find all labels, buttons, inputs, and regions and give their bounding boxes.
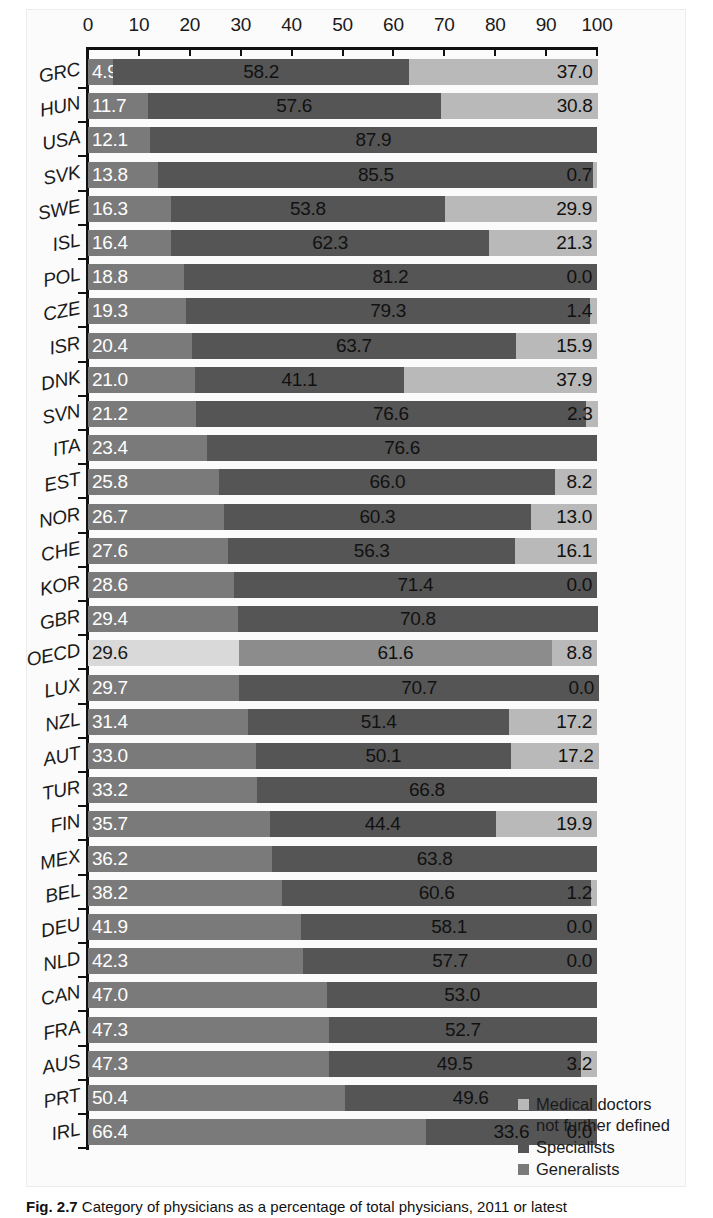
value-label-medical-doctors-nfd: 15.9 xyxy=(556,335,592,357)
legend-swatch-icon xyxy=(518,1164,529,1175)
y-tick-mark xyxy=(78,190,87,192)
segment-specialists: 85.5 xyxy=(158,162,593,188)
value-label-generalists: 66.4 xyxy=(92,1121,128,1143)
segment-specialists: 51.4 xyxy=(248,709,510,735)
y-tick-mark xyxy=(78,1079,87,1081)
caption-text: Category of physicians as a percentage o… xyxy=(82,1198,567,1215)
segment-specialists: 53.8 xyxy=(171,196,445,222)
value-label-specialists: 44.4 xyxy=(365,813,401,835)
value-label-generalists: 35.7 xyxy=(92,813,128,835)
value-label-generalists: 36.2 xyxy=(92,848,128,870)
segment-specialists: 81.2 xyxy=(184,264,597,290)
stacked-bar-deu: 41.958.10.0 xyxy=(88,914,597,940)
chart-legend: Medical doctorsnot further definedSpecia… xyxy=(518,1094,688,1181)
country-label-aus: AUS xyxy=(5,1050,82,1086)
segment-generalists: 21.0 xyxy=(88,367,195,393)
chart-row: CHE27.656.316.1 xyxy=(0,538,713,564)
value-label-generalists: 16.3 xyxy=(92,198,128,220)
chart-row: NLD42.357.70.0 xyxy=(0,948,713,974)
value-label-specialists: 57.6 xyxy=(276,95,312,117)
value-label-medical-doctors-nfd: 0.0 xyxy=(566,916,592,938)
segment-generalists: 26.7 xyxy=(88,504,224,530)
country-label-nld: NLD xyxy=(5,947,82,983)
country-label-oecd: OECD xyxy=(5,640,82,676)
segment-generalists: 4.9 xyxy=(88,59,113,85)
stacked-bar-nor: 26.760.313.0 xyxy=(88,504,597,530)
stacked-bar-swe: 16.353.829.9 xyxy=(88,196,597,222)
segment-medical-doctors-nfd: 21.3 xyxy=(489,230,597,256)
segment-generalists: 47.3 xyxy=(88,1017,329,1043)
legend-label-line2: not further defined xyxy=(536,1115,688,1136)
country-label-kor: KOR xyxy=(5,571,82,607)
segment-medical-doctors-nfd: 17.2 xyxy=(511,743,599,769)
segment-medical-doctors-nfd: 3.2 xyxy=(581,1051,597,1077)
stacked-bar-gbr: 29.470.8 xyxy=(88,606,597,632)
chart-row: OECD29.661.68.8 xyxy=(0,640,713,666)
value-label-medical-doctors-nfd: 8.8 xyxy=(566,642,592,664)
segment-generalists: 18.8 xyxy=(88,264,184,290)
value-label-medical-doctors-nfd: 1.2 xyxy=(566,882,592,904)
value-label-specialists: 58.1 xyxy=(431,916,467,938)
stacked-bar-can: 47.053.0 xyxy=(88,982,597,1008)
segment-generalists: 33.0 xyxy=(88,743,256,769)
caption-label: Fig. 2.7 xyxy=(26,1198,78,1215)
segment-specialists: 60.3 xyxy=(224,504,531,530)
segment-specialists: 62.3 xyxy=(171,230,488,256)
legend-item-1: Specialists xyxy=(518,1137,688,1158)
segment-generalists: 35.7 xyxy=(88,811,270,837)
value-label-medical-doctors-nfd: 21.3 xyxy=(556,232,592,254)
y-tick-mark xyxy=(78,839,87,841)
value-label-generalists: 26.7 xyxy=(92,506,128,528)
legend-swatch-icon xyxy=(518,1099,529,1110)
legend-item-0: Medical doctorsnot further defined xyxy=(518,1094,688,1136)
value-label-specialists: 60.3 xyxy=(359,506,395,528)
chart-row: ISL16.462.321.3 xyxy=(0,230,713,256)
value-label-specialists: 56.3 xyxy=(354,540,390,562)
chart-row: USA12.187.9 xyxy=(0,127,713,153)
y-tick-mark xyxy=(78,155,87,157)
stacked-bar-lux: 29.770.70.0 xyxy=(88,675,597,701)
value-label-generalists: 28.6 xyxy=(92,574,128,596)
segment-medical-doctors-nfd: 1.2 xyxy=(591,880,597,906)
value-label-specialists: 62.3 xyxy=(312,232,348,254)
value-label-generalists: 47.0 xyxy=(92,984,128,1006)
chart-row: ISR20.463.715.9 xyxy=(0,333,713,359)
chart-row: FRA47.352.7 xyxy=(0,1017,713,1043)
value-label-medical-doctors-nfd: 37.0 xyxy=(557,61,593,83)
segment-generalists: 28.6 xyxy=(88,572,234,598)
stacked-bar-che: 27.656.316.1 xyxy=(88,538,597,564)
segment-generalists: 23.4 xyxy=(88,435,207,461)
segment-specialists: 63.8 xyxy=(272,846,597,872)
value-label-specialists: 63.7 xyxy=(336,335,372,357)
stacked-bar-bel: 38.260.61.2 xyxy=(88,880,597,906)
y-tick-mark xyxy=(78,1113,87,1115)
segment-generalists: 36.2 xyxy=(88,846,272,872)
segment-medical-doctors-nfd: 29.9 xyxy=(445,196,597,222)
segment-medical-doctors-nfd: 19.9 xyxy=(496,811,597,837)
segment-generalists: 66.4 xyxy=(88,1119,426,1145)
value-label-specialists: 49.5 xyxy=(437,1053,473,1075)
y-tick-mark xyxy=(78,566,87,568)
value-label-medical-doctors-nfd: 19.9 xyxy=(556,813,592,835)
value-label-medical-doctors-nfd: 17.2 xyxy=(556,711,592,733)
segment-specialists: 71.4 xyxy=(234,572,597,598)
value-label-generalists: 33.2 xyxy=(92,779,128,801)
segment-specialists: 61.6 xyxy=(239,640,553,666)
value-label-medical-doctors-nfd: 0.0 xyxy=(566,950,592,972)
segment-generalists: 16.4 xyxy=(88,230,171,256)
segment-medical-doctors-nfd: 30.8 xyxy=(441,93,598,119)
chart-row: EST25.866.08.2 xyxy=(0,469,713,495)
chart-row: AUS47.349.53.2 xyxy=(0,1051,713,1077)
value-label-generalists: 29.7 xyxy=(92,677,128,699)
value-label-medical-doctors-nfd: 17.2 xyxy=(558,745,594,767)
y-tick-mark xyxy=(78,668,87,670)
y-tick-mark xyxy=(78,703,87,705)
value-label-generalists: 42.3 xyxy=(92,950,128,972)
value-label-specialists: 61.6 xyxy=(378,642,414,664)
chart-row: SVK13.885.50.7 xyxy=(0,162,713,188)
value-label-specialists: 53.8 xyxy=(290,198,326,220)
stacked-bar-aut: 33.050.117.2 xyxy=(88,743,597,769)
segment-specialists: 76.6 xyxy=(196,401,586,427)
value-label-generalists: 27.6 xyxy=(92,540,128,562)
segment-specialists: 58.2 xyxy=(113,59,409,85)
